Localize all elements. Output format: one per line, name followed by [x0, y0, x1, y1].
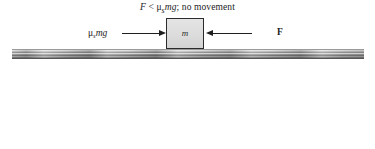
diagram-caption: F < μsmg; no movement: [0, 2, 375, 15]
applied-force-label: F: [277, 28, 283, 38]
friction-mass-gravity: mg: [96, 28, 108, 38]
caption-mass-gravity: mg: [165, 2, 177, 12]
arrow-head: [206, 30, 213, 36]
applied-force-arrow: [206, 29, 252, 38]
friction-diagram: F < μsmg; no movement m μsmg F a: [0, 0, 375, 149]
arrow-shaft: [122, 33, 160, 34]
mass-block: m: [166, 18, 204, 49]
arrow-shaft: [212, 33, 252, 34]
ground-surface: [12, 49, 364, 59]
arrow-head: [159, 30, 166, 36]
static-friction-panel: F < μsmg; no movement m μsmg F: [0, 0, 375, 72]
friction-force-arrow: [122, 29, 166, 38]
kinetic-friction-panel: a m μkmg F = μsmg: [0, 72, 375, 149]
applied-force-symbol: F: [277, 27, 283, 37]
caption-result-text: no movement: [182, 2, 235, 12]
mass-block-label: m: [182, 29, 189, 38]
friction-force-label: μsmg: [88, 29, 107, 39]
friction-mu-subscript: s: [93, 32, 96, 39]
